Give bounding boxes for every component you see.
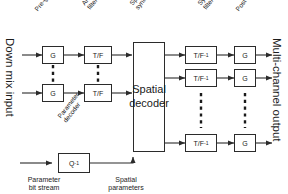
block-parameter-dequantizer[interactable]: Q-1 xyxy=(58,153,90,173)
block-post-gain-2[interactable]: G xyxy=(234,69,256,87)
label-spatial-params-l1: Spatial xyxy=(94,176,158,184)
block-post-gain-3[interactable]: G xyxy=(234,134,256,152)
synthesis-tf-1-base: T/F xyxy=(194,52,205,59)
block-analysis-tf-bottom[interactable]: T/F xyxy=(84,84,112,102)
label-bitstream-l2: bit stream xyxy=(14,184,74,192)
decoder-label-line1: Spatial xyxy=(132,83,166,97)
path-quantizer-to-decoder xyxy=(90,157,133,163)
synthesis-tf-2-base: T/F xyxy=(194,75,205,82)
block-spatial-decoder[interactable]: Spatial decoder xyxy=(133,42,165,152)
diagram-canvas: G G T/F T/F Spatial decoder T/F-1 T/F-1 … xyxy=(0,0,288,194)
block-analysis-tf-top[interactable]: T/F xyxy=(84,46,112,64)
label-multi-channel-output: Multi-channel output xyxy=(270,38,283,142)
label-down-mix-input: Down mix input xyxy=(3,38,16,117)
synthesis-tf-3-base: T/F xyxy=(194,140,205,147)
decoder-label-line2: decoder xyxy=(129,97,169,111)
block-synthesis-tf-1[interactable]: T/F-1 xyxy=(185,46,217,64)
block-synthesis-tf-2[interactable]: T/F-1 xyxy=(185,69,217,87)
label-spatial-params-l2: parameters xyxy=(94,184,158,192)
label-parameter-bit-stream: Parameter bit stream xyxy=(14,176,74,192)
block-post-gain-1[interactable]: G xyxy=(234,46,256,64)
block-pre-gain-bottom[interactable]: G xyxy=(42,84,64,102)
block-synthesis-tf-3[interactable]: T/F-1 xyxy=(185,134,217,152)
block-pre-gain-top[interactable]: G xyxy=(42,46,64,64)
label-bitstream-l1: Parameter xyxy=(14,176,74,184)
label-spatial-parameters: Spatial parameters xyxy=(94,176,158,192)
